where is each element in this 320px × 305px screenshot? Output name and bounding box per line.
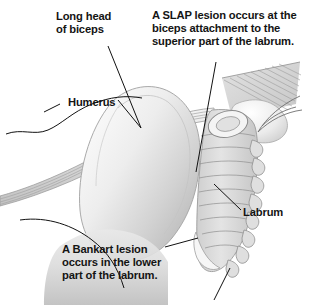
annotation-humerus: Humerus [68, 96, 115, 109]
annotation-bankart-lesion: A Bankart lesion occurs in the lower par… [62, 243, 161, 283]
annotation-slap-lesion: A SLAP lesion occurs at the biceps attac… [152, 9, 297, 49]
annotation-labrum: Labrum [243, 206, 283, 219]
annotation-long-head-of-biceps: Long head of biceps [56, 10, 111, 36]
